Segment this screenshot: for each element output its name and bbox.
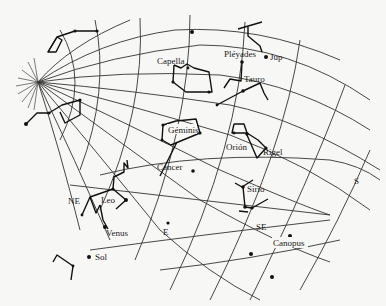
constellation-auriga [171, 64, 212, 94]
label-canopus: Canopus [273, 238, 305, 248]
label-jup: Jup [270, 52, 283, 62]
label-cancer: Cancer [157, 162, 182, 172]
label-sol: Sol [95, 252, 108, 262]
label-ne: NE [68, 196, 80, 206]
east-marker [166, 221, 169, 224]
label-leo: Leo [101, 195, 115, 205]
jupiter-marker [264, 55, 268, 59]
constellation-taurus [216, 22, 268, 106]
label-sirio: Sirio [247, 184, 265, 194]
constellation-cassiopeia [48, 29, 99, 52]
parallel-arcs [60, 15, 380, 300]
label-orion: Orión [226, 142, 247, 152]
label-pleyades: Pléyades [224, 49, 256, 59]
star-lower-1 [249, 252, 253, 256]
sol-marker [87, 255, 91, 259]
constellation-bootes [53, 255, 74, 280]
label-tauro: Tauro [244, 74, 265, 84]
labels: Capella Pléyades Jup Tauro Géminis Orión… [68, 49, 359, 262]
label-venus: Venus [106, 228, 128, 238]
star-lower-2 [270, 275, 274, 279]
label-s: S [354, 176, 359, 186]
star-top [190, 30, 194, 34]
label-rigel: Rigel [263, 147, 283, 157]
label-geminis: Géminis [168, 125, 199, 135]
label-e: E [163, 227, 169, 237]
pole-sunburst-icon [16, 58, 38, 110]
star-mid [191, 169, 195, 173]
label-capella: Capella [157, 56, 185, 66]
star-chart: Capella Pléyades Jup Tauro Géminis Orión… [0, 0, 386, 306]
constellation-ursa [24, 98, 82, 126]
star-chart-svg: Capella Pléyades Jup Tauro Géminis Orión… [0, 0, 386, 306]
label-se: SE [256, 222, 267, 232]
